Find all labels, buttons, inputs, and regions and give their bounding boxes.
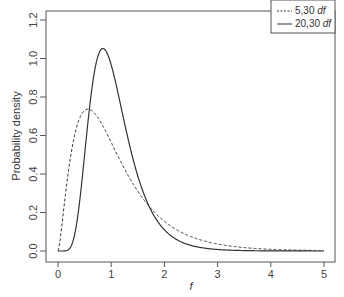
x-tick-label: 5 — [321, 268, 327, 280]
legend-label-5-30: 5,30 df — [295, 5, 327, 16]
x-tick-label: 3 — [215, 268, 221, 280]
series-5-30-df-line — [58, 109, 324, 251]
x-axis: 012345 — [55, 262, 327, 280]
y-tick-label: 0.8 — [27, 89, 39, 104]
y-axis-title: Probability density — [10, 91, 22, 181]
x-tick-label: 1 — [108, 268, 114, 280]
f-distribution-chart: 0.00.20.40.60.81.01.2 012345 Probability… — [0, 0, 344, 297]
y-axis: 0.00.20.40.60.81.01.2 — [27, 12, 46, 258]
y-tick-label: 0.4 — [27, 166, 39, 181]
series-20-30-df-line — [58, 48, 324, 251]
y-tick-label: 1.2 — [27, 12, 39, 27]
legend: 5,30 df 20,30 df — [271, 0, 335, 33]
y-tick-label: 0.0 — [27, 243, 39, 258]
x-tick-label: 4 — [268, 268, 274, 280]
plot-area-frame — [46, 11, 335, 262]
x-axis-title: f — [189, 280, 193, 292]
y-tick-label: 0.6 — [27, 128, 39, 143]
y-tick-label: 1.0 — [27, 51, 39, 66]
x-tick-label: 2 — [161, 268, 167, 280]
x-tick-label: 0 — [55, 268, 61, 280]
legend-label-20-30: 20,30 df — [295, 18, 332, 29]
y-tick-label: 0.2 — [27, 205, 39, 220]
